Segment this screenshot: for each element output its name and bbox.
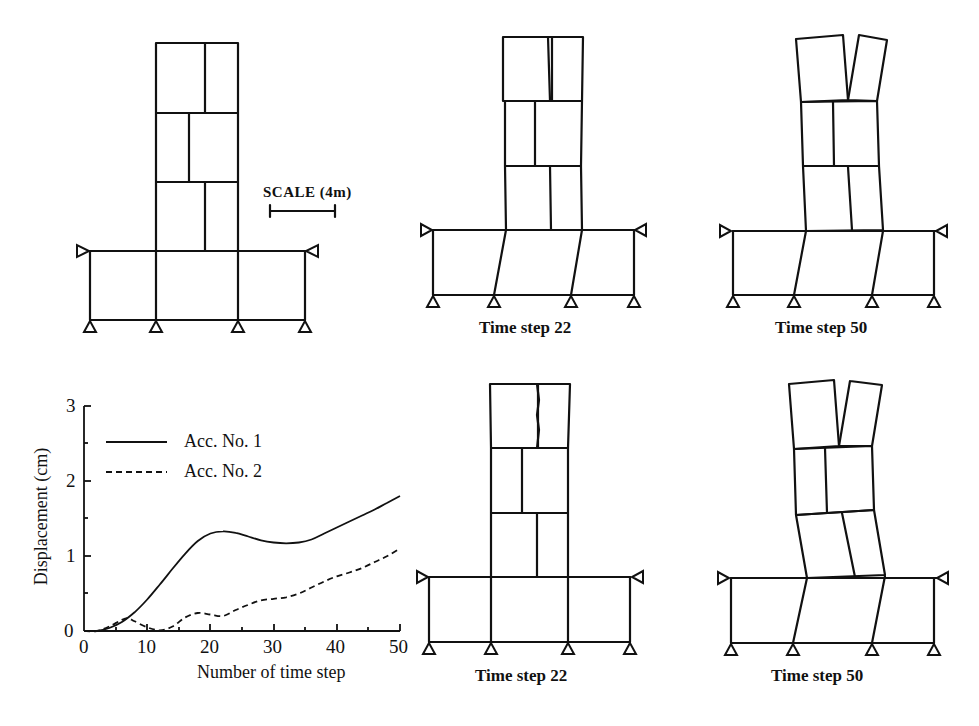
x-ticks bbox=[116, 624, 400, 631]
caption-bottom-mid: Time step 22 bbox=[475, 666, 567, 686]
x-tick-label: 40 bbox=[326, 636, 345, 658]
caption-top-right: Time step 50 bbox=[775, 318, 867, 338]
series-acc-no-2-line bbox=[84, 549, 400, 632]
y-tick-label: 1 bbox=[66, 545, 76, 567]
pin-support-icon bbox=[624, 643, 636, 654]
x-tick-label: 10 bbox=[137, 636, 156, 658]
deformed-frame-step50-bottom bbox=[718, 380, 948, 655]
scale-bar bbox=[270, 205, 335, 217]
caption-top-mid: Time step 22 bbox=[479, 318, 571, 338]
pin-support-icon bbox=[565, 296, 577, 307]
pin-support-icon bbox=[928, 644, 940, 655]
x-tick-label: 30 bbox=[263, 636, 282, 658]
roller-support-icon bbox=[635, 224, 646, 236]
pin-support-icon bbox=[232, 321, 244, 332]
pin-support-icon bbox=[423, 643, 435, 654]
pin-support-icon bbox=[787, 644, 799, 655]
x-tick-label: 20 bbox=[200, 636, 219, 658]
scale-label: SCALE (4m) bbox=[263, 184, 352, 201]
y-tick-label: 0 bbox=[64, 620, 74, 642]
roller-support-icon bbox=[718, 572, 729, 584]
pin-support-icon bbox=[84, 321, 96, 332]
pin-support-icon bbox=[427, 296, 439, 307]
x-axis-title: Number of time step bbox=[197, 662, 345, 683]
y-axis-title: Displacement (cm) bbox=[31, 442, 52, 592]
pin-support-icon bbox=[562, 643, 574, 654]
y-ticks bbox=[84, 406, 91, 593]
pin-support-icon bbox=[150, 321, 162, 332]
x-tick-label: 50 bbox=[389, 636, 408, 658]
deformed-frame-step22-top bbox=[421, 37, 646, 307]
deformed-frame-step50-top bbox=[720, 35, 947, 307]
pin-support-icon bbox=[928, 296, 940, 307]
legend-label-acc-2: Acc. No. 2 bbox=[184, 461, 262, 482]
roller-support-icon bbox=[306, 245, 318, 257]
pin-support-icon bbox=[866, 644, 878, 655]
roller-support-icon bbox=[720, 225, 731, 237]
roller-support-icon bbox=[936, 225, 947, 237]
pin-support-icon bbox=[788, 296, 800, 307]
pin-support-icon bbox=[725, 644, 737, 655]
roller-support-icon bbox=[937, 572, 948, 584]
x-tick-label: 0 bbox=[79, 636, 89, 658]
y-tick-label: 3 bbox=[66, 395, 76, 417]
deformed-frame-step22-bottom bbox=[417, 384, 643, 654]
pin-support-icon bbox=[727, 296, 739, 307]
figure-canvas bbox=[0, 0, 979, 726]
pin-support-icon bbox=[485, 643, 497, 654]
series-acc-no-1-line bbox=[84, 496, 400, 631]
roller-support-icon bbox=[417, 571, 428, 583]
y-tick-label: 2 bbox=[66, 470, 76, 492]
roller-support-icon bbox=[632, 571, 643, 583]
pin-support-icon bbox=[866, 296, 878, 307]
caption-bottom-right: Time step 50 bbox=[771, 666, 863, 686]
pin-support-icon bbox=[488, 296, 500, 307]
legend-label-acc-1: Acc. No. 1 bbox=[184, 431, 262, 452]
roller-support-icon bbox=[77, 245, 89, 257]
roller-support-icon bbox=[421, 224, 432, 236]
pin-support-icon bbox=[299, 321, 311, 332]
pin-support-icon bbox=[628, 296, 640, 307]
